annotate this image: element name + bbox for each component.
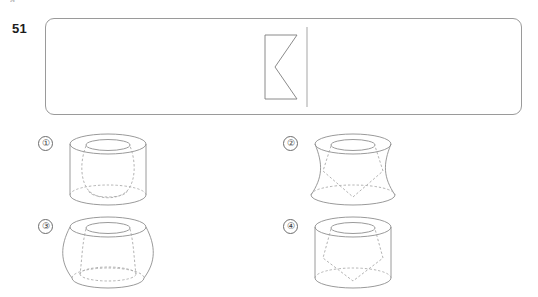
hyperboloid-left-side: [311, 144, 321, 195]
option-4[interactable]: ④: [283, 214, 413, 296]
inner-hyperboloid-bottom-back: [80, 267, 136, 274]
barrel-bottom-back-arc: [72, 268, 144, 278]
option-2[interactable]: ②: [283, 131, 413, 213]
option-4-label: ④: [283, 219, 298, 234]
option-1-label: ①: [38, 136, 53, 151]
inner-sphere-bottom-arc: [89, 191, 127, 197]
cylinder-top-ellipse: [315, 217, 391, 237]
option-2-figure: [301, 131, 413, 213]
option-3-label: ③: [38, 219, 53, 234]
hyperboloid-bottom-back-arc: [311, 185, 395, 195]
cylinder-bottom-back-arc: [315, 268, 391, 278]
option-3-figure: [56, 214, 168, 296]
cylinder-bottom-front-arc: [70, 195, 146, 205]
stem-figure: [255, 25, 325, 110]
inner-hyperboloid-left: [80, 229, 86, 274]
barrel-bottom-front-arc: [72, 278, 144, 288]
option-4-figure: [301, 214, 413, 296]
inner-top-opening-ellipse: [86, 223, 130, 234]
cylinder-top-ellipse: [70, 134, 146, 154]
barrel-left-side: [63, 227, 72, 278]
option-2-label: ②: [283, 136, 298, 151]
option-3[interactable]: ③: [38, 214, 168, 296]
hyperboloid-top-ellipse: [315, 134, 391, 154]
cylinder-bottom-back-arc: [70, 185, 146, 195]
inner-hyperboloid-bottom-front: [80, 274, 136, 281]
inner-hyperboloid-right: [130, 229, 136, 274]
cylinder-bottom-front-arc: [315, 278, 391, 288]
question-page: a 51 ①: [0, 0, 538, 297]
inner-top-opening-ellipse: [86, 140, 130, 151]
option-1-figure: [56, 131, 168, 213]
hyperboloid-right-side: [385, 144, 395, 195]
barrel-right-side: [144, 227, 153, 278]
inner-top-opening-ellipse: [331, 140, 375, 151]
option-1[interactable]: ①: [38, 131, 168, 213]
clipped-header-text: a: [10, 0, 16, 2]
stem-profile-path: [265, 35, 297, 99]
question-number: 51: [12, 21, 27, 36]
inner-top-opening-ellipse: [331, 223, 375, 234]
barrel-top-ellipse: [70, 217, 146, 237]
